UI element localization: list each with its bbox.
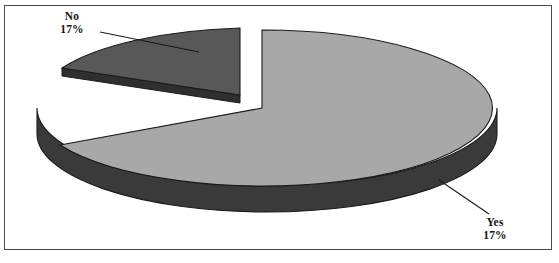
leader-line-yes: [439, 180, 489, 214]
pie-label-yes-percent: 17%: [466, 229, 524, 242]
pie-label-no-name: No: [43, 10, 101, 23]
pie-label-yes: Yes 17%: [466, 216, 524, 242]
pie-label-yes-name: Yes: [466, 216, 524, 229]
pie-label-no-percent: 17%: [43, 23, 101, 36]
pie-label-no: No 17%: [43, 10, 101, 36]
pie-chart-figure: No 17% Yes 17%: [0, 0, 559, 263]
